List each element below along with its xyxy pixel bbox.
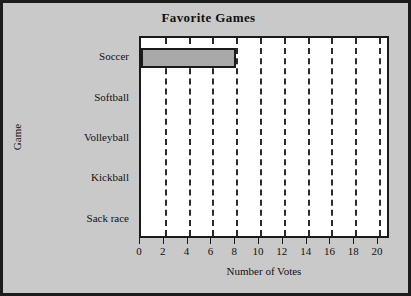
category-label-sack-race: Sack race: [87, 212, 129, 224]
y-axis-title-label: Game: [11, 124, 23, 150]
category-label-kickball: Kickball: [91, 171, 129, 183]
bar-row: [141, 119, 387, 159]
x-tick-label: 8: [231, 245, 237, 257]
x-tick-label: 12: [276, 245, 287, 257]
x-axis-tick-labels: 02468101214161820: [139, 245, 389, 261]
y-axis-title: Game: [6, 36, 28, 238]
tick-mark: [282, 238, 283, 244]
bar-row: [141, 200, 387, 240]
tick-mark: [163, 238, 164, 244]
x-tick-label: 10: [253, 245, 264, 257]
tick-mark: [258, 238, 259, 244]
tick-mark: [306, 238, 307, 244]
x-tick-label: 6: [208, 245, 214, 257]
tick-mark: [329, 238, 330, 244]
x-axis-title: Number of Votes: [139, 265, 389, 277]
category-label-volleyball: Volleyball: [84, 131, 129, 143]
chart-figure: Favorite Games Game SoccerSoftballVolley…: [0, 0, 411, 296]
x-tick-label: 0: [136, 245, 142, 257]
x-tick-label: 4: [184, 245, 190, 257]
x-tick-label: 16: [324, 245, 335, 257]
category-axis-labels: SoccerSoftballVolleyballKickballSack rac…: [29, 36, 135, 238]
plot-area: [139, 36, 389, 238]
category-label-softball: Softball: [94, 91, 129, 103]
tick-mark: [353, 238, 354, 244]
tick-mark: [377, 238, 378, 244]
bar-soccer[interactable]: [141, 48, 236, 68]
x-tick-label: 2: [160, 245, 166, 257]
tick-mark: [139, 238, 140, 244]
category-label-soccer: Soccer: [99, 50, 129, 62]
x-tick-label: 14: [300, 245, 311, 257]
tick-mark: [210, 238, 211, 244]
chart-title: Favorite Games: [3, 10, 411, 26]
x-tick-label: 18: [348, 245, 359, 257]
bar-row: [141, 38, 387, 78]
x-tick-label: 20: [372, 245, 383, 257]
tick-mark: [187, 238, 188, 244]
bar-row: [141, 159, 387, 199]
tick-mark: [234, 238, 235, 244]
bar-row: [141, 78, 387, 118]
